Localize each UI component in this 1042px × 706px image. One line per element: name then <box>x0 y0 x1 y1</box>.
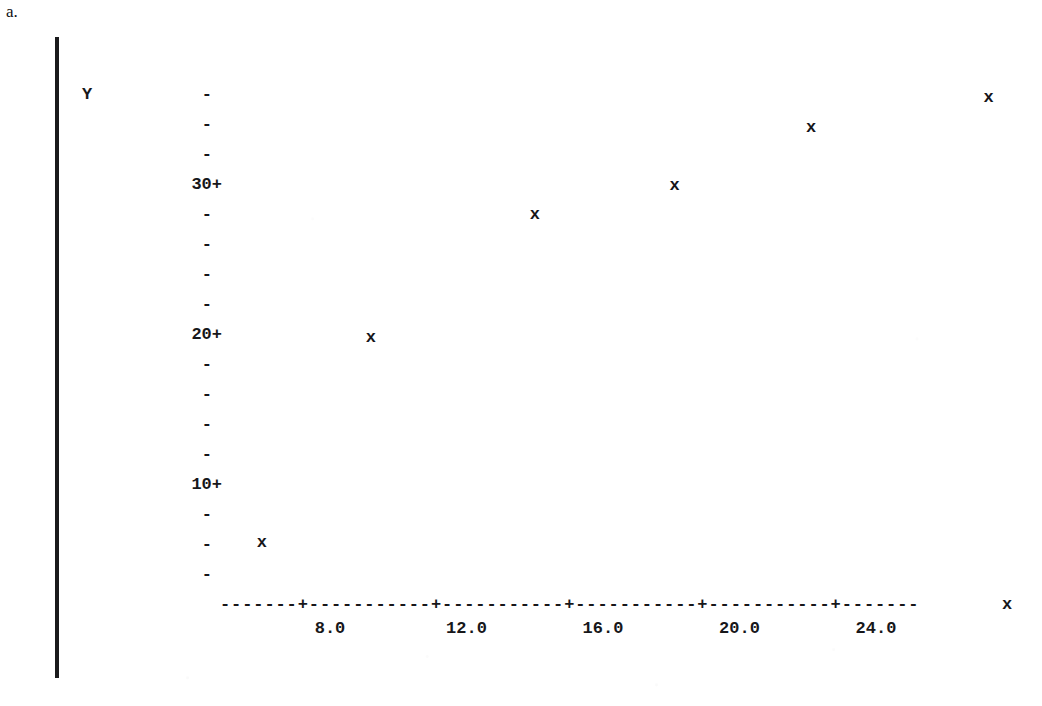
scatter-point: x <box>670 177 680 194</box>
scatter-point: x <box>984 88 994 105</box>
scatter-marks-layer: xxxxxx <box>0 0 1042 706</box>
x-tick-label: 16.0 <box>583 620 624 638</box>
scatter-point: x <box>366 328 376 345</box>
x-tick-label: 12.0 <box>446 620 487 638</box>
scatter-point: x <box>257 534 267 551</box>
x-tick-label: 24.0 <box>856 620 897 638</box>
scatter-point: x <box>530 205 540 222</box>
ascii-scatterplot-figure: a. Y 10+20+30+-------------- -------+---… <box>0 0 1042 706</box>
x-tick-label: 8.0 <box>315 620 346 638</box>
scatter-point: x <box>806 118 816 135</box>
x-tick-label: 20.0 <box>719 620 760 638</box>
